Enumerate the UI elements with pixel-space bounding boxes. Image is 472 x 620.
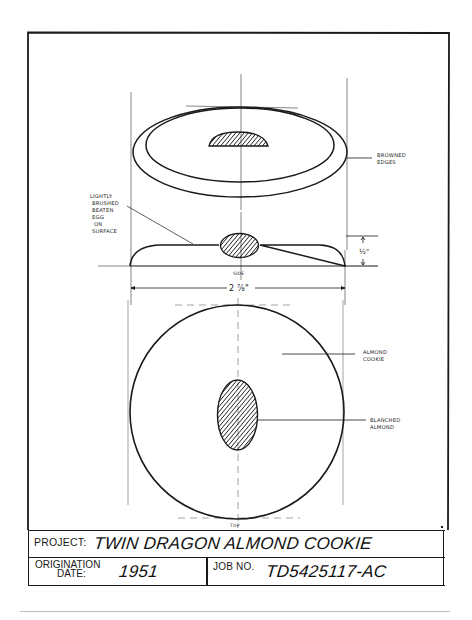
title-block-divider (206, 558, 208, 585)
svg-text:SURFACE: SURFACE (92, 228, 117, 234)
project-label: PROJECT: (34, 536, 86, 548)
footer-divider (20, 611, 450, 612)
callout-almond-cookie-line2: COOKIE (363, 356, 384, 362)
side-view-label: SIDE (233, 271, 244, 276)
callout-browned-edges-line2: EDGES (377, 159, 396, 165)
origination-date-label: ORIGINATION DATE: (35, 560, 100, 578)
top-view: ALMOND COOKIE BLANCHED ALMOND TOP (128, 298, 443, 528)
almond-half-icon (209, 132, 268, 146)
almond-side-icon (221, 234, 259, 258)
technical-drawing: BROWNED EDGES LIGHTLY BRUSHED BEATEN EGG… (0, 0, 472, 620)
job-number-label: JOB NO. (213, 561, 254, 572)
svg-text:BRUSHED: BRUSHED (92, 200, 119, 206)
svg-text:EGG: EGG (92, 214, 104, 220)
title-block: PROJECT: TWIN DRAGON ALMOND COOKIE ORIGI… (28, 530, 444, 586)
height-dimension-label: ½" (359, 248, 369, 256)
svg-text:LIGHTLY: LIGHTLY (90, 193, 113, 199)
callout-browned-edges: BROWNED (377, 152, 406, 158)
width-dimension-label: 2 ⅞" (229, 284, 249, 293)
top-view-label: TOP (229, 523, 240, 528)
info-row: ORIGINATION DATE: 1951 JOB NO. TD5425117… (29, 557, 445, 586)
project-value: TWIN DRAGON ALMOND COOKIE (93, 534, 373, 554)
callout-almond-cookie: ALMOND (363, 349, 387, 355)
cookie-outer-edge (133, 107, 347, 197)
project-row: PROJECT: TWIN DRAGON ALMOND COOKIE (29, 530, 445, 557)
callout-blanched-almond-line2: ALMOND (370, 424, 394, 430)
svg-text:BEATEN: BEATEN (92, 207, 114, 213)
callout-egg-wash: LIGHTLY BRUSHED BEATEN EGG ON SURFACE (90, 193, 119, 234)
job-number-value: TD5425117-AC (265, 562, 388, 582)
perspective-view: BROWNED EDGES (131, 74, 406, 250)
almond-top-icon (218, 380, 258, 450)
side-view: LIGHTLY BRUSHED BEATEN EGG ON SURFACE ½"… (90, 193, 378, 305)
callout-blanched-almond: BLANCHED (370, 417, 400, 423)
origination-date-value: 1951 (118, 562, 159, 582)
svg-text:ON: ON (94, 221, 102, 227)
